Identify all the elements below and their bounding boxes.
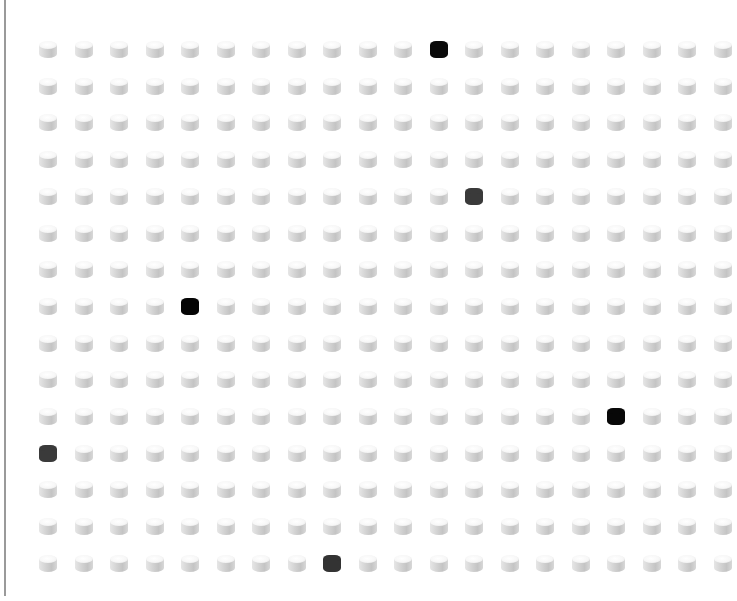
cylinder [110,78,128,95]
cylinder [252,261,270,278]
cylinder [572,445,590,462]
cylinder [39,151,57,168]
cylinder [252,41,270,58]
cylinder [678,298,696,315]
cylinder [536,518,554,535]
cylinder [181,445,199,462]
cylinder [501,371,519,388]
cylinder [465,371,483,388]
cylinder [607,445,625,462]
cylinder [146,261,164,278]
cylinder [288,41,306,58]
cylinder [252,298,270,315]
cylinder [394,261,412,278]
cylinder [678,188,696,205]
cylinder [465,261,483,278]
cylinder [359,555,377,572]
cylinder [323,188,341,205]
cylinder [252,408,270,425]
cylinder [252,481,270,498]
cylinder [288,151,306,168]
cylinder [430,335,448,352]
cylinder [394,555,412,572]
cylinder [39,225,57,242]
cylinder [323,518,341,535]
cylinder [252,371,270,388]
cylinder [572,298,590,315]
cylinder [110,225,128,242]
cylinder [501,335,519,352]
cylinder [323,408,341,425]
cylinder [607,114,625,131]
cylinder [394,481,412,498]
cylinder [501,555,519,572]
cylinder [536,151,554,168]
cylinder [110,188,128,205]
cylinder [607,481,625,498]
cylinder [217,78,235,95]
dark-cylinder [181,298,199,315]
cylinder [39,555,57,572]
cylinder [181,408,199,425]
cylinder [252,78,270,95]
cylinder [217,114,235,131]
cylinder [572,518,590,535]
cylinder [288,518,306,535]
cylinder [75,408,93,425]
cylinder [678,41,696,58]
cylinder [288,555,306,572]
cylinder [110,298,128,315]
cylinder [359,481,377,498]
cylinder [607,335,625,352]
cylinder [75,78,93,95]
cylinder [110,41,128,58]
cylinder [643,114,661,131]
cylinder [714,371,732,388]
cylinder [501,41,519,58]
cylinder [394,151,412,168]
cylinder [536,481,554,498]
cylinder [288,445,306,462]
cylinder [430,225,448,242]
cylinder [39,518,57,535]
cylinder [714,335,732,352]
cylinder [430,408,448,425]
cylinder [39,335,57,352]
cylinder [394,41,412,58]
cylinder [430,261,448,278]
cylinder [607,151,625,168]
cylinder [465,78,483,95]
cylinder [572,408,590,425]
cylinder [252,225,270,242]
cylinder [501,518,519,535]
cylinder [252,445,270,462]
cylinder [394,518,412,535]
cylinder [394,371,412,388]
cylinder [359,445,377,462]
cylinder [323,481,341,498]
cylinder [394,445,412,462]
cylinder [394,225,412,242]
cylinder [146,555,164,572]
cylinder [714,408,732,425]
cylinder [430,445,448,462]
cylinder [501,225,519,242]
cylinder [181,371,199,388]
cylinder [146,78,164,95]
dark-cylinder [465,188,483,205]
cylinder [678,481,696,498]
cylinder [181,78,199,95]
cylinder [607,78,625,95]
cylinder [643,408,661,425]
cylinder [146,335,164,352]
cylinder [678,445,696,462]
cylinder [536,188,554,205]
cylinder [430,518,448,535]
cylinder [323,298,341,315]
cylinder [39,188,57,205]
cylinder [359,188,377,205]
cylinder [288,188,306,205]
cylinder [288,408,306,425]
cylinder [465,408,483,425]
cylinder [217,335,235,352]
